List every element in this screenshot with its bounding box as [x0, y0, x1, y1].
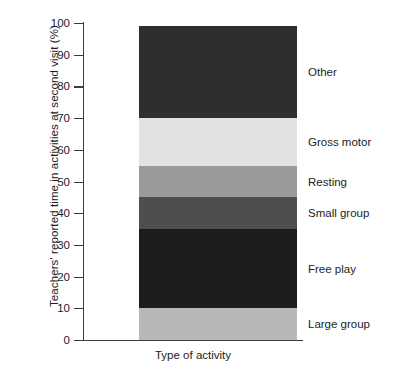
segment-label-other: Other [308, 66, 337, 78]
bar-segment-small-group [139, 197, 297, 229]
x-axis-title: Type of activity [83, 349, 303, 361]
y-axis-tick-label: 30 [57, 239, 70, 251]
y-axis-line [83, 22, 84, 341]
bar-segment-gross-motor [139, 118, 297, 166]
y-axis-tick-label: 100 [51, 17, 70, 29]
y-axis-tick-label: 90 [57, 49, 70, 61]
y-axis-tick-mark [74, 55, 83, 56]
y-axis-tick-mark [74, 86, 83, 87]
y-axis-tick-mark [74, 308, 83, 309]
y-axis-tick-mark [74, 340, 83, 341]
y-axis-tick-mark [74, 277, 83, 278]
y-axis-tick-mark [74, 245, 83, 246]
segment-label-gross-motor: Gross motor [308, 136, 371, 148]
bar-segment-free-play [139, 229, 297, 308]
y-axis-tick-label: 10 [57, 302, 70, 314]
y-axis-tick-mark [74, 118, 83, 119]
y-axis-tick-mark [74, 213, 83, 214]
segment-label-free-play: Free play [308, 263, 356, 275]
y-axis-tick-label: 80 [57, 80, 70, 92]
y-axis-tick-label: 20 [57, 271, 70, 283]
y-axis-tick-label: 40 [57, 207, 70, 219]
bar-segment-other [139, 26, 297, 118]
stacked-bar-chart: Teachers' reported time in activities at… [0, 0, 393, 375]
segment-label-resting: Resting [308, 176, 347, 188]
y-axis-tick-label: 70 [57, 112, 70, 124]
y-axis-tick-label: 50 [57, 176, 70, 188]
y-axis-tick-mark [74, 182, 83, 183]
y-axis-tick-mark [74, 150, 83, 151]
y-axis-tick-label: 0 [64, 334, 70, 346]
segment-label-small-group: Small group [308, 207, 369, 219]
bar-segment-large-group [139, 308, 297, 340]
y-axis-tick-mark [74, 23, 83, 24]
stacked-bar [139, 0, 297, 341]
segment-label-large-group: Large group [308, 318, 370, 330]
y-axis-tick-label: 60 [57, 144, 70, 156]
bar-segment-resting [139, 166, 297, 198]
